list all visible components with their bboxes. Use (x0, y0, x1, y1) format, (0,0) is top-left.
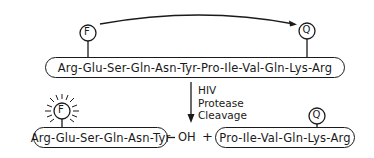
reaction-arrowhead-icon (188, 114, 195, 123)
reaction-label-line-3: Cleavage (198, 109, 247, 122)
oh-terminus: OH (178, 130, 196, 144)
fluorophore-label: F (84, 26, 90, 37)
reaction-label-line-1: HIV (198, 84, 247, 97)
left-fragment-peptide: Arg-Glu-Ser-Gln-Asn-Tyr (33, 127, 168, 148)
energy-transfer-arrow (100, 15, 294, 24)
product-fluorophore-label: F (58, 104, 64, 115)
quencher-label: Q (303, 24, 311, 35)
substrate-peptide: Arg-Glu-Ser-Gln-Asn-Tyr-Pro-Ile-Val-Gln-… (45, 57, 345, 78)
arrowhead-icon (289, 21, 297, 27)
plus-sign: + (202, 129, 213, 144)
right-fragment-peptide: Pro-Ile-Val-Gln-Lys-Arg (215, 127, 355, 148)
reaction-label-line-2: Protease (198, 97, 247, 110)
reaction-label: HIV Protease Cleavage (198, 84, 247, 122)
product-quencher-label: Q (313, 109, 321, 120)
